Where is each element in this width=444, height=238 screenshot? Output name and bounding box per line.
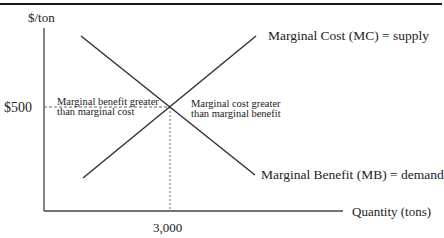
note-mb-greater: Marginal benefit greater than marginal c… xyxy=(57,97,159,116)
note-mc-greater: Marginal cost greater than marginal bene… xyxy=(191,99,281,118)
note-left-line2: than marginal cost xyxy=(57,107,159,117)
x-tick-3000: 3,000 xyxy=(153,221,182,234)
mc-curve-label: Marginal Cost (MC) = supply xyxy=(268,29,429,43)
x-axis-label: Quantity (tons) xyxy=(352,205,431,218)
mb-curve-label: Marginal Benefit (MB) = demand xyxy=(261,168,444,182)
y-tick-500: $500 xyxy=(4,101,32,115)
y-axis-unit: $/ton xyxy=(28,11,55,24)
note-right-line2: than marginal benefit xyxy=(191,109,281,119)
